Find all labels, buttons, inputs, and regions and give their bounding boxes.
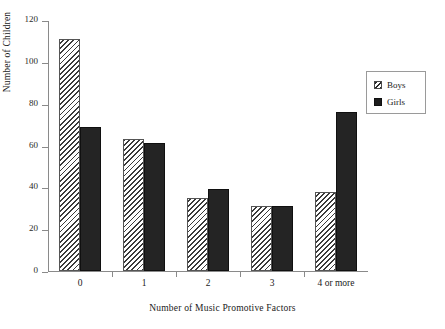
y-tick: 0 bbox=[42, 272, 48, 273]
legend-item-boys: Boys bbox=[374, 80, 406, 90]
x-tick bbox=[240, 272, 241, 277]
y-tick-label: 60 bbox=[29, 140, 38, 150]
x-axis-line bbox=[48, 271, 368, 272]
legend-label-boys: Boys bbox=[387, 80, 406, 90]
y-tick: 80 bbox=[42, 105, 48, 106]
x-tick-label: 2 bbox=[176, 278, 240, 288]
x-axis-title: Number of Music Promotive Factors bbox=[0, 303, 445, 313]
bar-girls-1 bbox=[144, 143, 165, 271]
y-tick: 40 bbox=[42, 188, 48, 189]
legend-swatch-boys-icon bbox=[374, 81, 382, 89]
legend-label-girls: Girls bbox=[387, 97, 405, 107]
x-tick-label: 4 or more bbox=[304, 278, 368, 288]
y-tick-label: 40 bbox=[29, 181, 38, 191]
y-tick: 60 bbox=[42, 147, 48, 148]
bar-boys-2 bbox=[187, 198, 208, 271]
x-tick bbox=[176, 272, 177, 277]
bar-girls-3 bbox=[272, 206, 293, 271]
x-tick-label: 3 bbox=[240, 278, 304, 288]
y-axis-title: Number of Children bbox=[2, 0, 18, 112]
y-tick: 120 bbox=[42, 21, 48, 22]
y-tick: 100 bbox=[42, 63, 48, 64]
bar-girls-4 bbox=[336, 112, 357, 271]
bar-girls-0 bbox=[80, 127, 101, 271]
x-tick bbox=[112, 272, 113, 277]
y-tick-label: 0 bbox=[34, 265, 39, 275]
y-tick-label: 120 bbox=[25, 14, 39, 24]
x-tick-label: 0 bbox=[48, 278, 112, 288]
legend-swatch-girls-icon bbox=[374, 98, 382, 106]
x-tick bbox=[304, 272, 305, 277]
y-tick-label: 20 bbox=[29, 223, 38, 233]
y-tick-label: 80 bbox=[29, 98, 38, 108]
bar-chart: Number of Children 020406080100120 01234… bbox=[0, 0, 445, 329]
bar-girls-2 bbox=[208, 189, 229, 271]
y-axis-line bbox=[48, 21, 49, 272]
bar-boys-0 bbox=[59, 39, 80, 271]
legend: Boys Girls bbox=[366, 71, 426, 114]
plot-area: 020406080100120 01234 or more bbox=[48, 21, 368, 272]
y-tick-label: 100 bbox=[25, 56, 39, 66]
bar-boys-4 bbox=[315, 192, 336, 271]
y-tick: 20 bbox=[42, 230, 48, 231]
bar-boys-3 bbox=[251, 206, 272, 271]
x-tick-label: 1 bbox=[112, 278, 176, 288]
bar-boys-1 bbox=[123, 139, 144, 271]
legend-item-girls: Girls bbox=[374, 97, 405, 107]
